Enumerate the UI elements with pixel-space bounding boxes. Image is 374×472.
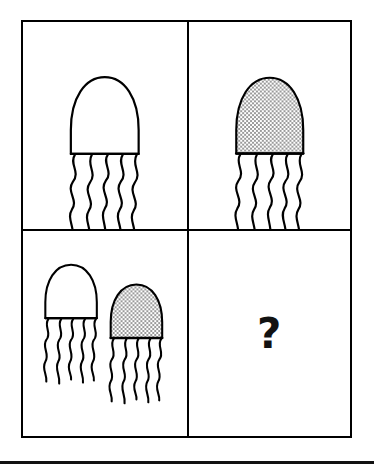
matrix-cell-bottom-left[interactable] xyxy=(23,229,187,436)
jellyfish-pair-small xyxy=(23,231,187,436)
question-mark: ? xyxy=(189,231,351,436)
jellyfish-large-shaded xyxy=(189,22,351,229)
matrix-cell-top-right[interactable] xyxy=(187,22,351,229)
matrix-cell-bottom-right[interactable]: ? xyxy=(187,229,351,436)
jellyfish-large-plain xyxy=(23,22,187,229)
bottom-divider-rule xyxy=(0,461,374,464)
jellyfish-small-shaded xyxy=(109,284,162,403)
analogy-puzzle: ? xyxy=(0,0,374,472)
jellyfish-small-plain xyxy=(44,265,97,384)
matrix-cell-top-left[interactable] xyxy=(23,22,187,229)
matrix-grid: ? xyxy=(21,20,352,438)
